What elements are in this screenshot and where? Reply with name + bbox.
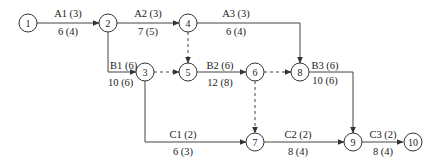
label-a3-duration: 6 (4) — [226, 26, 247, 38]
node-label-2: 2 — [106, 18, 111, 29]
label-a2-name: A2 (3) — [134, 8, 162, 20]
label-b3-duration: 10 (6) — [312, 75, 338, 87]
label-b2-name: B2 (6) — [206, 60, 234, 72]
label-b1-name: B1 (6) — [110, 60, 138, 72]
node-label-6: 6 — [253, 67, 258, 78]
label-b2-duration: 12 (8) — [207, 77, 233, 89]
label-a1-duration: 6 (4) — [58, 26, 79, 38]
node-label-8: 8 — [298, 67, 303, 78]
label-c3-name: C3 (2) — [369, 129, 397, 141]
node-label-7: 7 — [253, 137, 258, 148]
node-label-3: 3 — [143, 67, 148, 78]
label-a1-name: A1 (3) — [54, 8, 82, 20]
node-label-9: 9 — [351, 137, 356, 148]
label-c1-name: C1 (2) — [169, 129, 197, 141]
label-a3-name: A3 (3) — [222, 8, 250, 20]
label-c2-name: C2 (2) — [284, 129, 312, 141]
label-b3-name: B3 (6) — [311, 60, 339, 72]
label-c3-duration: 8 (4) — [373, 146, 394, 158]
node-label-5: 5 — [186, 67, 191, 78]
label-c2-duration: 8 (4) — [288, 146, 309, 158]
node-label-10: 10 — [408, 137, 418, 148]
label-a2-duration: 7 (5) — [138, 26, 159, 38]
label-b1-duration: 10 (6) — [108, 77, 134, 89]
node-label-1: 1 — [26, 18, 31, 29]
node-label-4: 4 — [186, 18, 191, 29]
label-c1-duration: 6 (3) — [173, 146, 194, 158]
network-diagram: A1 (3) 6 (4) A2 (3) 7 (5) A3 (3) 6 (4) B… — [0, 0, 439, 167]
arrow-a3 — [197, 23, 300, 63]
